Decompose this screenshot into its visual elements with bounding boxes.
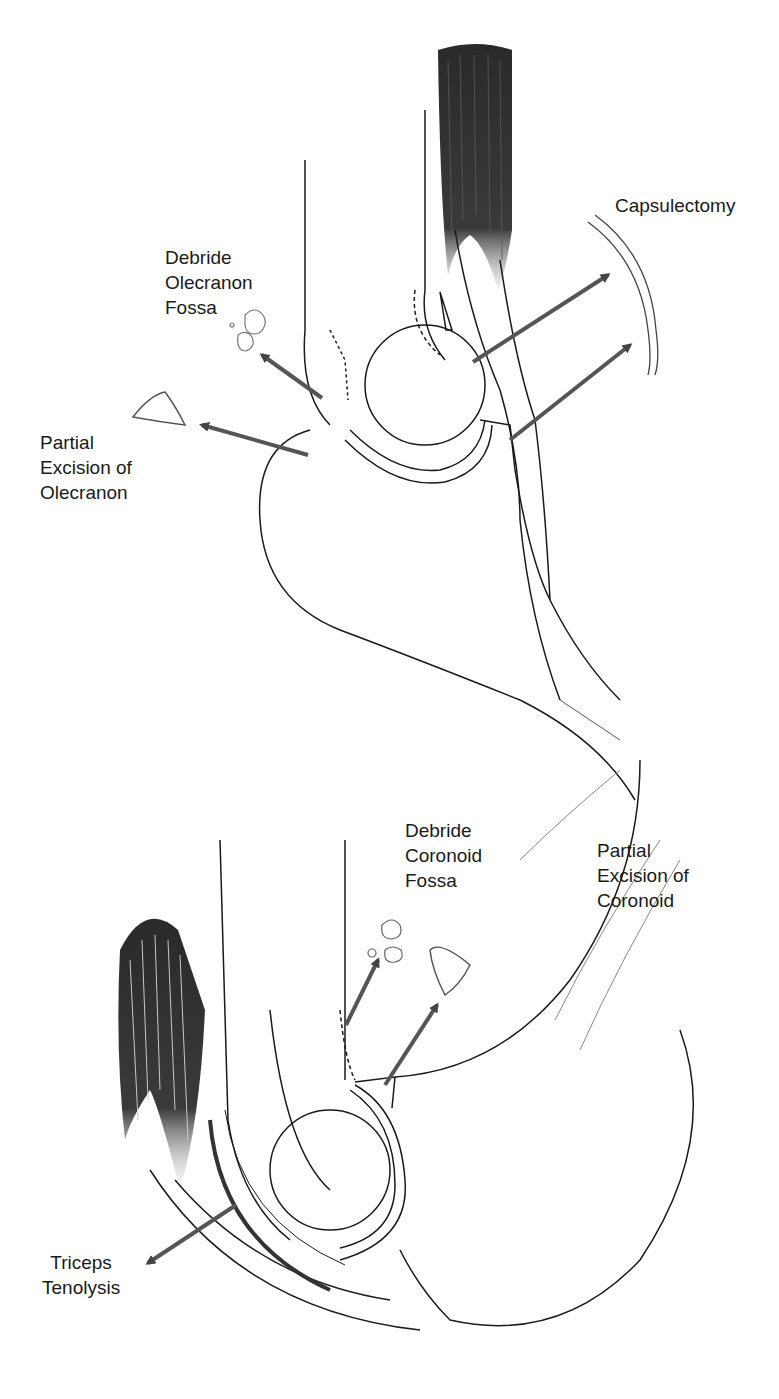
- coronoid-tip-fragment: [430, 947, 470, 995]
- label-debride-olecranon-fossa: Debride Olecranon Fossa: [165, 245, 253, 320]
- label-debride-coronoid-fossa: Debride Coronoid Fossa: [405, 818, 482, 893]
- coronoid-fragments: [368, 920, 402, 962]
- label-partial-excision-olecranon: Partial Excision of Olecranon: [40, 430, 132, 505]
- label-partial-excision-coronoid: Partial Excision of Coronoid: [597, 838, 689, 913]
- triceps-muscle-bottom: [118, 919, 205, 1190]
- label-triceps-tenolysis: Triceps Tenolysis: [42, 1250, 120, 1300]
- procedure-arrows-top: [202, 275, 630, 455]
- label-capsulectomy: Capsulectomy: [615, 193, 735, 218]
- olecranon-tip-fragment: [133, 392, 185, 425]
- anterior-elbow-drawing: [118, 700, 693, 1330]
- posterior-elbow-drawing: [260, 44, 635, 800]
